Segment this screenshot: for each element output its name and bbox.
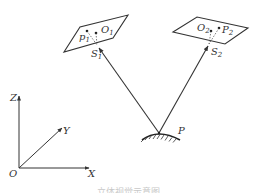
- projection-rays: [99, 46, 208, 133]
- world-axes: Z Y X O: [9, 92, 96, 179]
- ray-to-s2: [159, 46, 208, 133]
- label-o1: O1: [101, 24, 114, 37]
- right-image-plane: O2 P2 S2: [173, 17, 248, 59]
- label-o2: O2: [197, 22, 210, 35]
- left-image-plane: p1 O1 S1: [64, 15, 128, 61]
- y-axis: [19, 128, 62, 168]
- label-s2: S2: [211, 46, 223, 59]
- point-P: [158, 132, 160, 134]
- object-surface: P: [141, 125, 185, 143]
- ray-to-s1: [99, 48, 159, 133]
- stereo-vision-diagram: p1 O1 S1 O2 P2 S2 P: [0, 0, 256, 193]
- label-p1: p1: [79, 31, 90, 44]
- label-X: X: [87, 168, 96, 179]
- label-Y: Y: [63, 125, 71, 136]
- label-Z: Z: [9, 92, 18, 103]
- label-P: P: [177, 125, 185, 136]
- label-p2: P2: [221, 24, 234, 37]
- label-origin: O: [9, 168, 17, 179]
- figure-caption: 立体视觉示意图: [97, 186, 160, 193]
